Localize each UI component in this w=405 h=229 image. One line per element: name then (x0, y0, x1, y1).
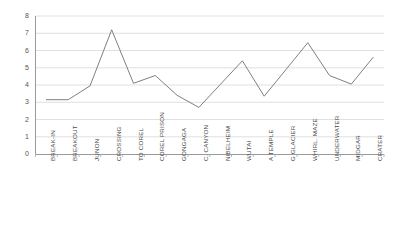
y-tick-label: 2 (17, 116, 29, 124)
y-tick-label: 3 (17, 98, 29, 106)
y-tick-label: 6 (17, 47, 29, 55)
y-tick-label: 5 (17, 64, 29, 72)
y-tick-label: 0 (17, 150, 29, 158)
line-chart: 012345678 BREAK-INBREAKOUTJUNONCROSSINGT… (0, 0, 405, 229)
y-tick-label: 4 (17, 81, 29, 89)
y-tick-label: 7 (17, 29, 29, 37)
y-tick-label: 8 (17, 12, 29, 20)
y-tick-label: 1 (17, 133, 29, 141)
data-series-line (46, 30, 373, 108)
chart-plot-area (0, 0, 405, 229)
